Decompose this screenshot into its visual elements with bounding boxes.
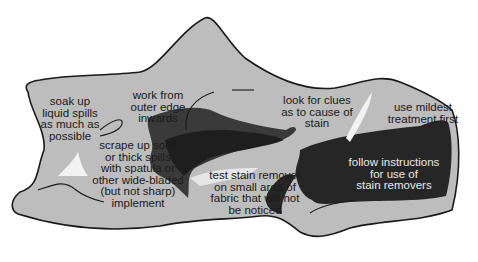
label-test-stain-remover: test stain remover on small area of fabr…	[200, 170, 310, 216]
label-follow-instructions: follow instructions for use of stain rem…	[344, 157, 444, 192]
stain-removal-diagram: soak up liquid spills as much as possibl…	[0, 0, 478, 262]
label-use-mildest-treatment: use mildest treatment first	[378, 102, 468, 125]
label-look-for-clues: look for clues as to cause of stain	[272, 95, 362, 130]
label-work-from-outer-edge: work from outer edge inwards	[126, 90, 190, 125]
label-soak-up-liquid: soak up liquid spills as much as possibl…	[38, 96, 102, 142]
label-scrape-up-solid: scrape up solid or thick spills with spa…	[86, 140, 190, 209]
